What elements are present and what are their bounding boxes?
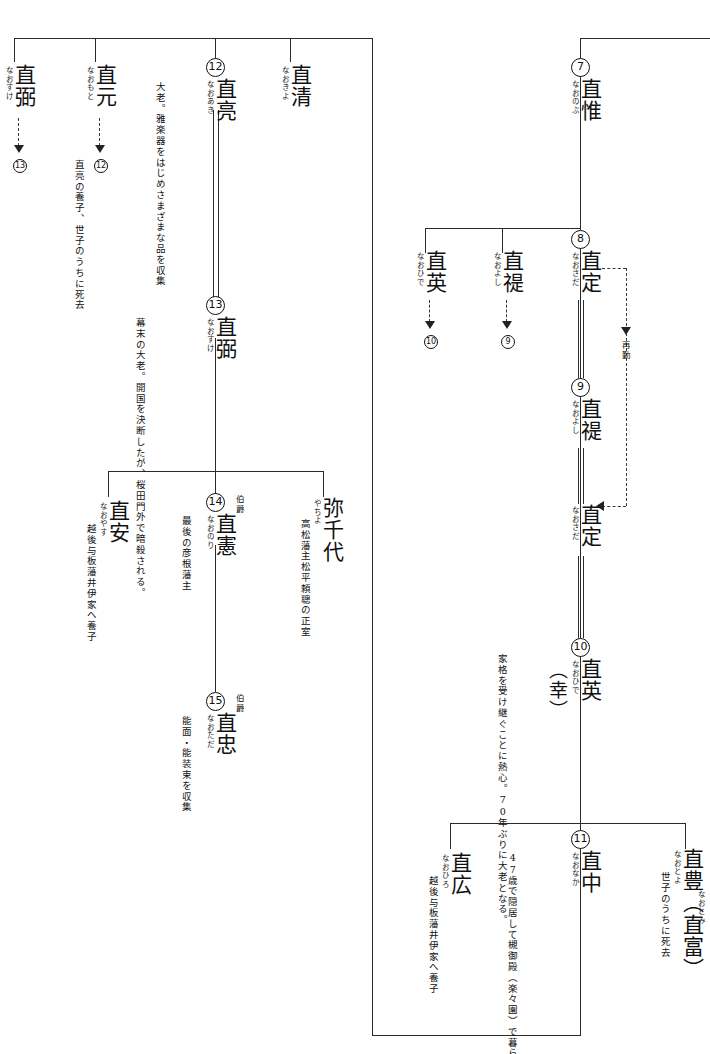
rank-naotada: 伯爵: [234, 694, 243, 714]
sibling-bar-naohide-children: [450, 823, 685, 824]
ref-gen-13: 13: [13, 159, 27, 173]
person-name: 直定: [579, 250, 600, 294]
dashed-reappoint-bottom: [602, 506, 626, 507]
double-line-naoyoshi-to-naosada: [578, 448, 584, 504]
drop-naonori-to-naotada: [215, 545, 216, 692]
person-name: 直忠: [214, 712, 235, 756]
gen-badge-15: 15: [206, 692, 225, 711]
person-name: 直英: [424, 250, 445, 294]
person-naotoyo-yomi2: なおとみ: [696, 890, 705, 924]
ref-gen-9: 9: [501, 335, 515, 349]
person-name: 直禔: [579, 398, 600, 442]
person-naohide-branch[interactable]: 直英 なおひで: [415, 250, 445, 294]
ref-gen-12: 12: [94, 159, 108, 173]
drop-naohiro: [450, 823, 451, 849]
drop-yachiyo: [323, 471, 324, 497]
dashed-reappoint-top: [602, 268, 626, 269]
arrowhead-reappoint: [621, 327, 631, 335]
note-naohide10: 家格を受け継ぐことに熱心。70年ぶりに大老となる。: [495, 654, 509, 728]
drop-naosuke-left: [14, 38, 15, 62]
double-line-naoaki-to-naosuke: [213, 110, 219, 298]
person-naoaki[interactable]: 直亮 なおあき: [205, 78, 235, 122]
note-text: 越後与板藩井伊家へ養子: [426, 876, 440, 995]
person-name: 弥千代: [321, 497, 342, 563]
note-text: 直亮の養子、世子のうちに死去: [72, 160, 86, 311]
person-naonaka11[interactable]: 直中 なおなか: [570, 850, 600, 894]
drop-naonaka-to-bottom: [580, 900, 581, 1035]
person-yachiyo[interactable]: 弥千代 やちよ: [312, 497, 342, 563]
drop-naohide10: [580, 690, 581, 823]
person-name: 直憲: [214, 513, 235, 557]
arrowhead-naohide-b: [425, 321, 435, 329]
drop-naoyasu: [108, 471, 109, 497]
drop-naotoyo: [685, 823, 686, 849]
person-naosada8[interactable]: 直定 なおさだ: [570, 250, 600, 294]
person-naotada[interactable]: 直忠 なおただ: [205, 712, 235, 756]
drop-naomoto: [95, 38, 96, 62]
note-text: 越後与板藩井伊家へ養子: [84, 524, 98, 643]
person-name: 直英: [579, 658, 600, 702]
note-text: 家格を受け継ぐことに熱心。70年ぶりに大老となる。: [495, 654, 509, 728]
person-name: 直弼: [214, 316, 235, 360]
gen-badge-11: 11: [571, 830, 590, 849]
person-name: 直元: [94, 64, 115, 108]
note-naomoto: 直亮の養子、世子のうちに死去: [72, 160, 86, 340]
gen-badge-14: 14: [206, 493, 225, 512]
person-naoyoshi9[interactable]: 直禔 なおよし: [570, 398, 600, 442]
note-naoyasu: 越後与板藩井伊家へ養子: [84, 524, 98, 643]
rank-naonori: 伯爵: [234, 495, 243, 515]
note-text: 幕末の大老。開国を決断したが、桜田門外で暗殺される。: [133, 318, 147, 444]
sibling-bar-top-left: [14, 38, 372, 39]
note-naoaki: 大老。雅楽器をはじめさまざまな品を収集: [153, 82, 167, 200]
double-line-naosada-to-naohide: [578, 556, 584, 638]
note-text: 世子のうちに死去: [658, 872, 672, 958]
double-line-naosada-to-naoyoshi: [578, 300, 584, 378]
altname-text: （幸）: [547, 660, 566, 720]
person-name: 直安: [107, 500, 128, 544]
person-name: 直禔: [501, 250, 522, 294]
note-text: 最後の彦根藩主: [179, 516, 193, 592]
person-naokiyo[interactable]: 直清 なおきよ: [280, 64, 310, 108]
drop-naonobu: [580, 118, 581, 228]
arrowhead-naomoto: [95, 145, 105, 153]
person-naohiro[interactable]: 直広 なおひろ: [440, 852, 470, 896]
note-yachiyo: 高松藩主松平頼聰の正室: [298, 519, 312, 638]
dashed-naosuke-left: [18, 118, 19, 146]
person-naosada-again[interactable]: 直定 なおさだ: [570, 504, 600, 548]
rank-text: 伯爵: [234, 495, 243, 515]
dashed-naomoto: [99, 118, 100, 146]
person-name: 直広: [449, 852, 470, 896]
gen-badge-12: 12: [206, 58, 225, 77]
person-naoyasu[interactable]: 直安 なおやす: [98, 500, 128, 544]
person-naonobu[interactable]: 直惟 なおのぶ: [570, 78, 600, 122]
gen-badge-9: 9: [571, 378, 590, 397]
person-name: 直清: [289, 64, 310, 108]
person-naosuke13[interactable]: 直弼 なおすけ: [205, 316, 235, 360]
person-naoyoshi-branch[interactable]: 直禔 なおよし: [492, 250, 522, 294]
person-naonori[interactable]: 直憲 なおのり: [205, 513, 235, 557]
note-text: 高松藩主松平頼聰の正室: [298, 519, 312, 638]
rank-text: 伯爵: [234, 694, 243, 714]
bottom-connector: [372, 1035, 580, 1036]
person-naosuke-left[interactable]: 直弼 なおすけ: [4, 64, 34, 108]
sibling-bar-top-right: [580, 38, 710, 39]
person-naohide10[interactable]: 直英 なおひで: [570, 658, 600, 702]
note-naotoyo: 世子のうちに死去: [658, 872, 672, 958]
note-naonori: 最後の彦根藩主: [179, 516, 193, 592]
sibling-bar-naonobu-children: [425, 228, 581, 229]
drop-naokiyo: [290, 38, 291, 62]
note-naohiro: 越後与板藩井伊家へ養子: [426, 876, 440, 995]
person-name: 直定: [579, 504, 600, 548]
person-name: 直弼: [13, 64, 34, 108]
gen-badge-13: 13: [206, 296, 225, 315]
arrowhead-naosuke-left: [14, 145, 24, 153]
person-naomoto[interactable]: 直元 なおもと: [85, 64, 115, 108]
dashed-reappoint-side: [626, 268, 627, 506]
genealogy-chart: 13 12 10 9 再勤 直弼 なおすけ 直元: [0, 0, 710, 1054]
note-text: 能面・能装束を収集: [179, 716, 193, 813]
person-yomi-2: なおとみ: [696, 890, 705, 924]
gen-badge-10: 10: [571, 638, 590, 657]
person-name: 直惟: [579, 78, 600, 122]
note-naotada: 能面・能装束を収集: [179, 716, 193, 813]
reappoint-label: 再勤: [620, 341, 629, 361]
